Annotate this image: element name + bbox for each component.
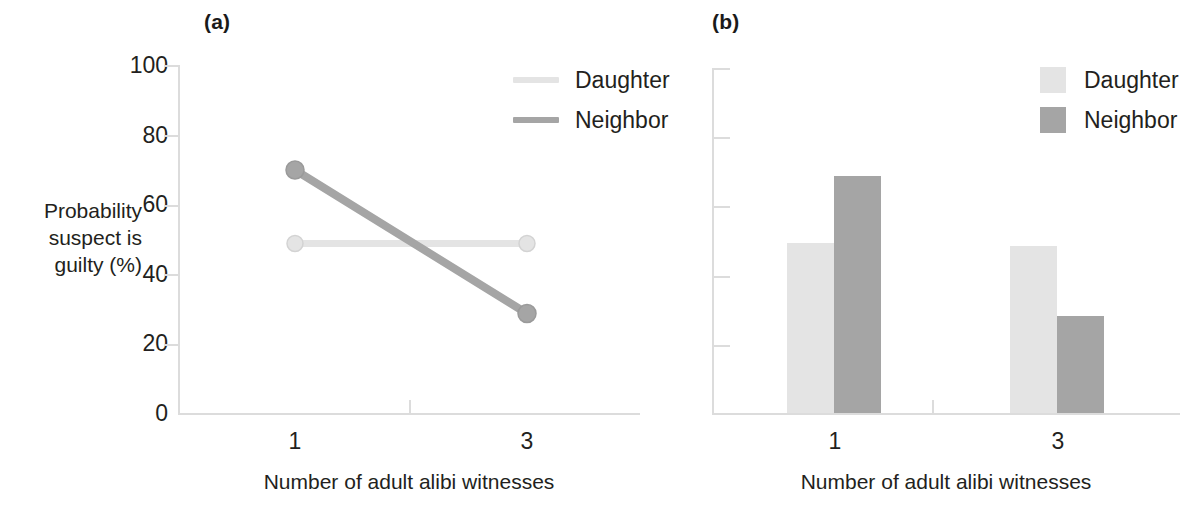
panel-b-xtick-label-1: 1 <box>805 428 865 455</box>
panel-a-legend-item-neighbor[interactable]: Neighbor <box>513 100 670 140</box>
panel-a-xtick-label-3: 3 <box>497 428 557 455</box>
panel-a-legend: Daughter Neighbor <box>513 60 670 140</box>
panel-b-legend-label-daughter: Daughter <box>1084 67 1179 94</box>
panel-a-ytick-60: 60 <box>98 191 168 218</box>
panel-b-legend-label-neighbor: Neighbor <box>1084 107 1177 134</box>
legend-line-swatch-neighbor-icon <box>513 117 559 123</box>
panel-b-legend-item-neighbor[interactable]: Neighbor <box>1040 100 1179 140</box>
bar-neighbor-3[interactable] <box>1057 316 1104 413</box>
panel-a-ytick-0: 0 <box>98 400 168 427</box>
panel-a-legend-item-daughter[interactable]: Daughter <box>513 60 670 100</box>
panel-a-ytick-100: 100 <box>98 52 168 79</box>
legend-box-swatch-neighbor-icon <box>1040 107 1066 133</box>
bar-daughter-3[interactable] <box>1010 246 1057 413</box>
panel-b-x-axis-line <box>712 413 1180 415</box>
panel-a-label: (a) <box>204 10 230 34</box>
panel-b-label: (b) <box>712 10 739 34</box>
panel-b-legend: Daughter Neighbor <box>1040 60 1179 140</box>
panel-a-legend-label-neighbor: Neighbor <box>575 107 668 134</box>
panel-b-x-axis-title: Number of adult alibi witnesses <box>746 470 1146 494</box>
panel-a-ytick-20: 20 <box>98 330 168 357</box>
legend-line-swatch-daughter-icon <box>513 77 559 83</box>
bar-daughter-1[interactable] <box>787 243 834 413</box>
figure-two-panel-chart: (a) Probability suspect is guilty (%) 10… <box>0 0 1195 507</box>
panel-a-ytick-80: 80 <box>98 122 168 149</box>
panel-a-ytick-40: 40 <box>98 261 168 288</box>
panel-a-x-axis-title: Number of adult alibi witnesses <box>209 470 609 494</box>
panel-a-xtick-label-1: 1 <box>265 428 325 455</box>
bar-neighbor-1[interactable] <box>834 176 881 413</box>
panel-a-legend-label-daughter: Daughter <box>575 67 670 94</box>
panel-b-legend-item-daughter[interactable]: Daughter <box>1040 60 1179 100</box>
y-axis-label-line-2: suspect is <box>2 224 142 251</box>
legend-box-swatch-daughter-icon <box>1040 67 1066 93</box>
panel-b-xtick-label-3: 3 <box>1028 428 1088 455</box>
